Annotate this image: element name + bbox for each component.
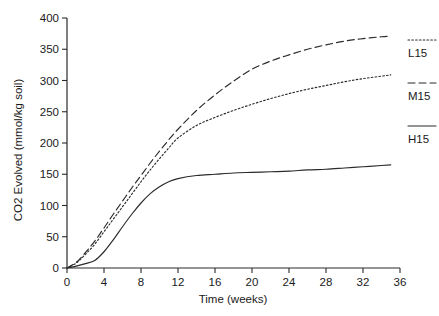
chart-canvas: 050100150200250300350400 048121620242832… — [0, 0, 439, 316]
x-tick-label: 8 — [138, 276, 144, 288]
y-tick-label: 100 — [40, 200, 59, 212]
series-line-l15 — [67, 75, 391, 268]
legend-label-h15: H15 — [408, 133, 429, 145]
x-axis-tick-labels: 04812162024283236 — [64, 276, 407, 288]
y-tick-label: 300 — [40, 75, 59, 87]
x-tick-label: 20 — [246, 276, 259, 288]
x-tick-label: 36 — [394, 276, 407, 288]
x-tick-label: 4 — [101, 276, 108, 288]
series-line-m15 — [67, 36, 391, 268]
y-axis-title: CO2 Evolved (mmol/kg soil) — [12, 79, 24, 222]
y-axis-tick-labels: 050100150200250300350400 — [40, 12, 59, 274]
x-tick-label: 24 — [283, 276, 296, 288]
x-axis-title: Time (weeks) — [199, 293, 268, 305]
x-tick-label: 16 — [209, 276, 222, 288]
data-series — [67, 36, 391, 268]
legend-label-m15: M15 — [408, 90, 430, 102]
chart-legend: L15M15H15 — [408, 40, 436, 145]
y-tick-label: 0 — [53, 262, 59, 274]
y-tick-label: 200 — [40, 137, 59, 149]
x-tick-label: 32 — [357, 276, 370, 288]
y-tick-label: 150 — [40, 168, 59, 180]
x-tick-label: 28 — [320, 276, 333, 288]
y-tick-label: 400 — [40, 12, 59, 24]
y-tick-label: 350 — [40, 43, 59, 55]
x-tick-label: 0 — [64, 276, 70, 288]
series-line-h15 — [67, 165, 391, 268]
y-tick-label: 250 — [40, 106, 59, 118]
legend-label-l15: L15 — [408, 47, 427, 59]
tick-marks — [62, 18, 400, 273]
x-tick-label: 12 — [172, 276, 185, 288]
axes — [67, 18, 400, 268]
y-tick-label: 50 — [46, 231, 59, 243]
co2-evolution-chart: 050100150200250300350400 048121620242832… — [0, 0, 439, 316]
